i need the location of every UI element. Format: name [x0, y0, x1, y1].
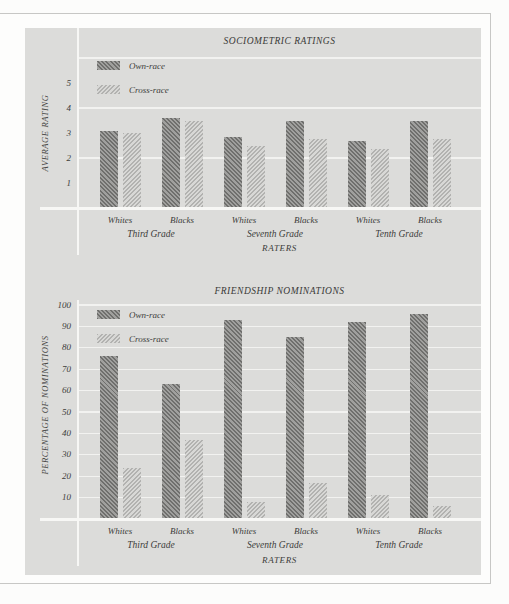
bar-cross-race-blacks-1 [185, 440, 203, 519]
y-tick-label: 20 [35, 471, 71, 482]
bar-own-race-whites-0 [100, 356, 118, 519]
x-axis-label: RATERS [78, 555, 481, 565]
bar-cross-race-whites-0 [123, 468, 141, 519]
y-tick-label: 40 [35, 428, 71, 439]
y-tick-label: 100 [35, 300, 71, 311]
grade-label: Seventh Grade [220, 540, 330, 550]
legend-label-cross-race: Cross-race [129, 334, 169, 344]
rater-label: Blacks [147, 526, 217, 536]
legend-entry-own-race: Own-race [97, 309, 169, 320]
bar-own-race-blacks-3 [286, 337, 304, 519]
y-axis-line [77, 300, 79, 566]
gridline [79, 304, 481, 305]
rater-label: Whites [209, 526, 279, 536]
legend: Own-race Cross-race [97, 309, 169, 357]
y-tick-label: 60 [35, 385, 71, 396]
rater-label: Whites [85, 526, 155, 536]
bar-cross-race-blacks-3 [309, 483, 327, 519]
chart-title: FRIENDSHIP NOMINATIONS [78, 286, 481, 296]
bar-own-race-whites-4 [348, 322, 366, 519]
bar-cross-race-whites-2 [247, 502, 265, 519]
bar-own-race-blacks-1 [162, 384, 180, 519]
y-tick-label: 90 [35, 321, 71, 332]
grade-label: Tenth Grade [344, 540, 454, 550]
rater-label: Whites [333, 526, 403, 536]
x-axis-line [40, 518, 481, 521]
legend-label-own-race: Own-race [129, 310, 165, 320]
own-race-swatch [97, 310, 120, 319]
grade-label: Third Grade [96, 540, 206, 550]
legend-entry-cross-race: Cross-race [97, 333, 169, 344]
bar-cross-race-whites-4 [371, 495, 389, 519]
bar-own-race-blacks-5 [410, 314, 428, 519]
y-tick-label: 70 [35, 364, 71, 375]
cross-race-swatch [97, 334, 120, 343]
bar-own-race-whites-2 [224, 320, 242, 519]
y-tick-label: 10 [35, 492, 71, 503]
y-tick-label: 50 [35, 407, 71, 418]
chart-friendship-nominations: FRIENDSHIP NOMINATIONS Own-race Cross-ra… [25, 28, 481, 575]
rater-label: Blacks [395, 526, 465, 536]
figure-panel: SOCIOMETRIC RATINGS Own-race Cross-race … [25, 28, 481, 575]
y-tick-label: 30 [35, 449, 71, 460]
y-tick-label: 80 [35, 342, 71, 353]
rater-label: Blacks [271, 526, 341, 536]
